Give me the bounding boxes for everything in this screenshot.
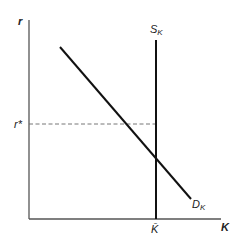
demand-curve: [60, 47, 191, 199]
y-axis-label: r: [18, 16, 22, 27]
supply-label: SK: [150, 24, 163, 37]
supply-label-sub: K: [157, 28, 162, 37]
x-axis-label: K: [221, 222, 229, 233]
k-bar-label: K̄: [151, 224, 158, 235]
r-star-label: r*: [14, 119, 22, 130]
diagram-canvas: [0, 0, 234, 250]
demand-label-sub: K: [200, 203, 205, 212]
demand-label: DK: [192, 199, 205, 212]
demand-label-main: D: [192, 198, 200, 210]
